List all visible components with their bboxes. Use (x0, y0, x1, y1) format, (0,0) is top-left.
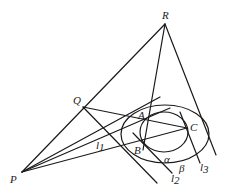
label-C: C (190, 121, 198, 133)
label-l2: l2 (171, 172, 180, 186)
label-B: B (134, 144, 141, 156)
label-A: A (137, 109, 145, 121)
label-l3: l3 (200, 161, 209, 175)
label-Q: Q (73, 94, 81, 106)
label-R: R (161, 9, 169, 21)
label-alpha: α (164, 153, 170, 165)
geometry-diagram: R Q P A B C α β l1 l2 l3 (0, 0, 228, 196)
line-R-right (165, 24, 216, 155)
label-beta: β (178, 162, 185, 174)
label-l1: l1 (96, 139, 105, 153)
line-l3 (180, 112, 200, 163)
label-P: P (9, 173, 17, 185)
